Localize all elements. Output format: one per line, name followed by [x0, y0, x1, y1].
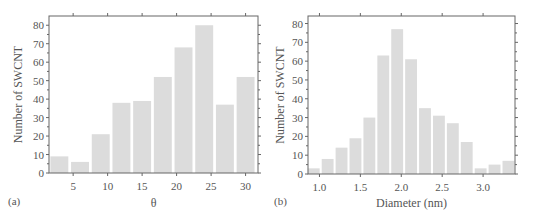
bar	[363, 118, 375, 174]
x-tick-label: 10	[102, 180, 114, 192]
y-tick-label: 50	[292, 74, 304, 86]
chart-a: 0102030405060708051015202530Number of SW…	[0, 0, 266, 220]
y-tick-label: 20	[292, 130, 304, 142]
x-tick-label: 2.0	[394, 181, 408, 193]
panel-label: (a)	[8, 195, 21, 208]
y-tick-label: 80	[33, 19, 45, 31]
y-tick-label: 40	[33, 93, 45, 105]
y-tick-label: 70	[292, 36, 304, 48]
bar	[112, 103, 130, 173]
chart-b: 010203040506070801.01.52.02.53.0Number o…	[266, 0, 533, 220]
y-tick-label: 10	[292, 149, 304, 161]
bar	[419, 108, 431, 174]
y-tick-label: 30	[33, 112, 45, 124]
y-tick-label: 60	[33, 56, 45, 68]
x-axis-label: θ	[151, 196, 157, 210]
bar	[405, 59, 417, 174]
x-axis-label: Diameter (nm)	[376, 196, 447, 210]
bar	[216, 105, 234, 173]
bar	[308, 168, 320, 174]
bar	[461, 142, 473, 174]
x-tick-label: 5	[70, 180, 76, 192]
bar	[447, 123, 459, 174]
bar	[350, 138, 362, 174]
bar	[377, 56, 389, 175]
x-tick-label: 30	[240, 180, 252, 192]
bar	[237, 77, 255, 173]
y-tick-label: 70	[33, 38, 45, 50]
bar	[71, 162, 89, 173]
bar	[475, 168, 487, 174]
y-tick-label: 40	[292, 93, 304, 105]
y-tick-label: 20	[33, 130, 45, 142]
bar	[391, 29, 403, 174]
y-tick-label: 10	[33, 149, 45, 161]
y-tick-label: 0	[298, 168, 304, 180]
bar	[175, 47, 193, 173]
x-tick-label: 1.5	[353, 181, 367, 193]
x-tick-label: 2.5	[435, 181, 449, 193]
bar	[322, 159, 334, 174]
y-tick-label: 80	[292, 18, 304, 30]
bar	[489, 165, 501, 174]
bar	[433, 116, 445, 174]
bar	[50, 156, 68, 173]
bar	[503, 161, 515, 174]
x-tick-label: 1.0	[313, 181, 327, 193]
y-axis-label: Number of SWCNT	[273, 46, 287, 144]
y-axis-label: Number of SWCNT	[11, 45, 25, 143]
bar	[92, 134, 110, 173]
panel-label: (b)	[274, 195, 287, 208]
x-tick-label: 20	[171, 180, 183, 192]
y-tick-label: 0	[39, 167, 45, 179]
y-tick-label: 60	[292, 55, 304, 67]
y-tick-label: 50	[33, 75, 45, 87]
x-tick-label: 15	[137, 180, 149, 192]
x-tick-label: 25	[206, 180, 218, 192]
y-tick-label: 30	[292, 112, 304, 124]
bar	[336, 148, 348, 174]
x-tick-label: 3.0	[476, 181, 490, 193]
bar	[154, 77, 172, 173]
bar	[195, 25, 213, 173]
bar	[133, 101, 151, 173]
